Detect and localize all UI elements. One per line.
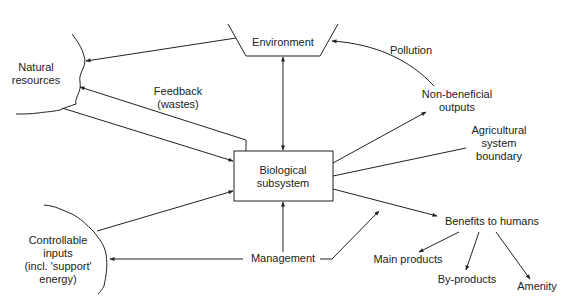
- node-controllable-inputs-line2: inputs: [26, 247, 90, 260]
- node-by-products: By-products: [432, 273, 502, 286]
- node-biological-subsystem-line2: subsystem: [248, 177, 318, 190]
- node-controllable-inputs-line1: Controllable: [26, 234, 90, 247]
- edge-label-boundary-line1: Agricultural: [460, 124, 538, 137]
- edge-label-feedback-line1: Feedback: [150, 85, 206, 98]
- node-management: Management: [246, 252, 320, 265]
- node-non-beneficial-outputs-line1: Non-beneficial: [416, 88, 498, 101]
- node-benefits-to-humans: Benefits to humans: [440, 215, 544, 228]
- edge-label-boundary-line3: boundary: [460, 150, 538, 163]
- agricultural-system-diagram: Environment Natural resources Biological…: [0, 0, 568, 308]
- node-biological-subsystem-line1: Biological: [248, 164, 318, 177]
- edge-label-boundary-line2: system: [460, 137, 538, 150]
- edge-label-feedback-line2: (wastes): [150, 98, 206, 111]
- node-controllable-inputs-line3: (incl. 'support': [20, 260, 96, 273]
- edge-label-pollution: Pollution: [384, 44, 438, 57]
- node-environment: Environment: [244, 36, 322, 49]
- node-controllable-inputs-line4: energy): [26, 273, 90, 286]
- node-natural-resources-line2: resources: [8, 74, 64, 87]
- node-amenity: Amenity: [512, 280, 562, 293]
- node-non-beneficial-outputs-line2: outputs: [416, 101, 498, 114]
- node-main-products: Main products: [368, 253, 448, 266]
- node-natural-resources-line1: Natural: [10, 61, 62, 74]
